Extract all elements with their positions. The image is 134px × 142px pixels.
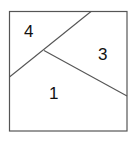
region-label-1: 1	[49, 85, 58, 102]
partition-diagram	[0, 0, 134, 142]
region-label-4: 4	[24, 23, 33, 40]
region-label-3: 3	[98, 46, 107, 63]
